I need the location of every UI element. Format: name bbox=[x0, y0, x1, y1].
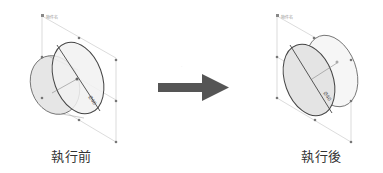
after-center-point[interactable] bbox=[336, 61, 339, 64]
before-center-point[interactable] bbox=[76, 78, 79, 81]
after-corner-marker bbox=[276, 14, 279, 17]
transition-arrow-icon bbox=[158, 74, 229, 101]
after-cylinder-figure: 物件名 Ø40 bbox=[274, 14, 367, 143]
before-corner-label: 物件名 bbox=[46, 14, 58, 20]
before-cylinder-figure: 物件名 Ø40 bbox=[22, 14, 117, 143]
before-corner-marker bbox=[41, 14, 44, 17]
after-caption: 執行後 bbox=[301, 146, 342, 165]
after-corner-label: 物件名 bbox=[281, 14, 293, 20]
before-caption: 執行前 bbox=[51, 146, 92, 165]
arrow-dot: · bbox=[181, 64, 182, 69]
